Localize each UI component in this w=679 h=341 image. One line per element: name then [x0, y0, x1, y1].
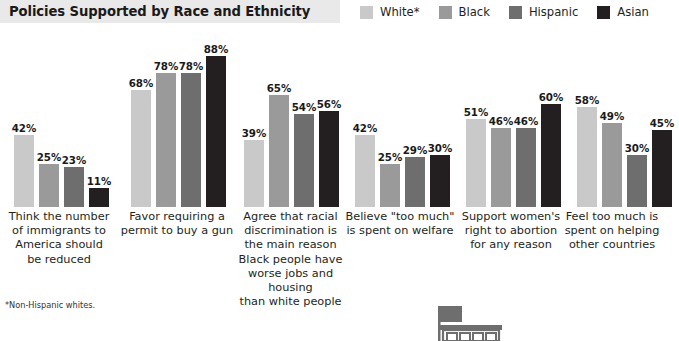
bar[interactable] — [466, 119, 486, 207]
category-label-line: Support women's — [452, 210, 570, 224]
bar-column[interactable]: 25% — [39, 23, 59, 207]
bar[interactable] — [577, 107, 597, 207]
legend-label: Asian — [617, 5, 649, 19]
bar-column[interactable]: 29% — [405, 23, 425, 207]
bar-column[interactable]: 56% — [319, 23, 339, 207]
category-label-line: Favor requiring a — [118, 210, 236, 224]
bar-column[interactable]: 42% — [355, 23, 375, 207]
bar-group-bars: 51%46%46%60% — [466, 23, 561, 207]
legend-item-black: Black — [439, 5, 490, 19]
legend-swatch-icon — [360, 6, 373, 19]
bar-column[interactable]: 23% — [64, 23, 84, 207]
storefront-building-illustration — [417, 306, 517, 341]
bar-column[interactable]: 30% — [430, 23, 450, 207]
legend-label: Hispanic — [529, 5, 578, 19]
category-label-line: spent on helping — [563, 224, 661, 238]
bar[interactable] — [64, 167, 84, 207]
category-label-line: for any reason — [452, 238, 570, 252]
category-label-line: America should — [0, 238, 118, 252]
category-label-line: other countries — [563, 238, 661, 252]
bar-column[interactable]: 30% — [627, 23, 647, 207]
category-label: Think the numberof immigrants toAmerica … — [0, 210, 118, 267]
bar[interactable] — [181, 73, 201, 207]
category-label: Favor requiring apermit to buy a gun — [118, 210, 236, 238]
bar[interactable] — [269, 95, 289, 207]
bar-column[interactable]: 46% — [516, 23, 536, 207]
bar-column[interactable]: 65% — [269, 23, 289, 207]
bar[interactable] — [131, 90, 151, 207]
chart-plot-area: 42%25%23%11%68%78%78%88%39%65%54%56%42%2… — [0, 23, 661, 207]
bar-value-label: 60% — [534, 91, 568, 103]
bar-column[interactable]: 42% — [14, 23, 34, 207]
legend-item-hispanic: Hispanic — [509, 5, 578, 19]
bar-group-bars: 42%25%23%11% — [14, 23, 109, 207]
category-label-line: permit to buy a gun — [118, 224, 236, 238]
category-label-line: be reduced — [0, 253, 118, 267]
bar-value-label: 58% — [570, 94, 604, 106]
bar-value-label: 45% — [645, 117, 679, 129]
bar[interactable] — [294, 114, 314, 207]
bar-column[interactable]: 51% — [466, 23, 486, 207]
legend-item-white: White* — [360, 5, 420, 19]
bar[interactable] — [156, 73, 176, 207]
bar-column[interactable]: 78% — [156, 23, 176, 207]
bar-value-label: 11% — [82, 175, 116, 187]
bar[interactable] — [14, 135, 34, 207]
category-label-line: Black people have — [228, 253, 353, 267]
bar-group-bars: 68%78%78%88% — [131, 23, 226, 207]
category-label-line: worse jobs and housing — [228, 267, 353, 295]
category-label: Believe "too much"is spent on welfare — [340, 210, 460, 238]
legend-swatch-icon — [597, 6, 610, 19]
bar-group-bars: 42%25%29%30% — [355, 23, 450, 207]
bar-column[interactable]: 49% — [602, 23, 622, 207]
bar-column[interactable]: 68% — [131, 23, 151, 207]
category-label-line: of immigrants to — [0, 224, 118, 238]
bar[interactable] — [541, 104, 561, 207]
bar-value-label: 65% — [262, 82, 296, 94]
legend-label: Black — [459, 5, 490, 19]
bar[interactable] — [39, 164, 59, 207]
bar[interactable] — [244, 140, 264, 207]
bar[interactable] — [652, 130, 672, 207]
bar-value-label: 30% — [423, 142, 457, 154]
category-axis-labels: Think the numberof immigrants toAmerica … — [0, 210, 661, 282]
bar-value-label: 68% — [124, 77, 158, 89]
bar-column[interactable]: 11% — [89, 23, 109, 207]
bar-value-label: 46% — [509, 115, 543, 127]
bar[interactable] — [206, 56, 226, 207]
bar-column[interactable]: 78% — [181, 23, 201, 207]
bar-column[interactable]: 54% — [294, 23, 314, 207]
bar[interactable] — [405, 157, 425, 207]
category-label-line: Feel too much is — [563, 210, 661, 224]
bar[interactable] — [516, 128, 536, 207]
bar-value-label: 56% — [312, 98, 346, 110]
category-label-line: is spent on welfare — [340, 224, 460, 238]
legend-swatch-icon — [509, 6, 522, 19]
bar-column[interactable]: 88% — [206, 23, 226, 207]
category-label-line: Think the number — [0, 210, 118, 224]
bar-column[interactable]: 45% — [652, 23, 672, 207]
bar[interactable] — [380, 164, 400, 207]
footnote: *Non-Hispanic whites. — [5, 300, 95, 310]
bar-column[interactable]: 39% — [244, 23, 264, 207]
page-title: Policies Supported by Race and Ethnicity — [9, 4, 310, 19]
bar[interactable] — [89, 188, 109, 207]
bar-column[interactable]: 25% — [380, 23, 400, 207]
chart-legend: White*BlackHispanicAsian — [360, 4, 668, 20]
legend-label: White* — [380, 5, 420, 19]
bar-value-label: 23% — [57, 154, 91, 166]
bar-value-label: 88% — [199, 43, 233, 55]
bar[interactable] — [430, 155, 450, 207]
bar-column[interactable]: 60% — [541, 23, 561, 207]
bar-column[interactable]: 46% — [491, 23, 511, 207]
bar-column[interactable]: 58% — [577, 23, 597, 207]
bar-group-bars: 58%49%30%45% — [577, 23, 672, 207]
bar[interactable] — [627, 155, 647, 207]
bar-value-label: 30% — [620, 142, 654, 154]
bar[interactable] — [491, 128, 511, 207]
bar[interactable] — [602, 123, 622, 207]
bar[interactable] — [319, 111, 339, 207]
legend-swatch-icon — [439, 6, 452, 19]
bar[interactable] — [355, 135, 375, 207]
bar-group-bars: 39%65%54%56% — [244, 23, 339, 207]
